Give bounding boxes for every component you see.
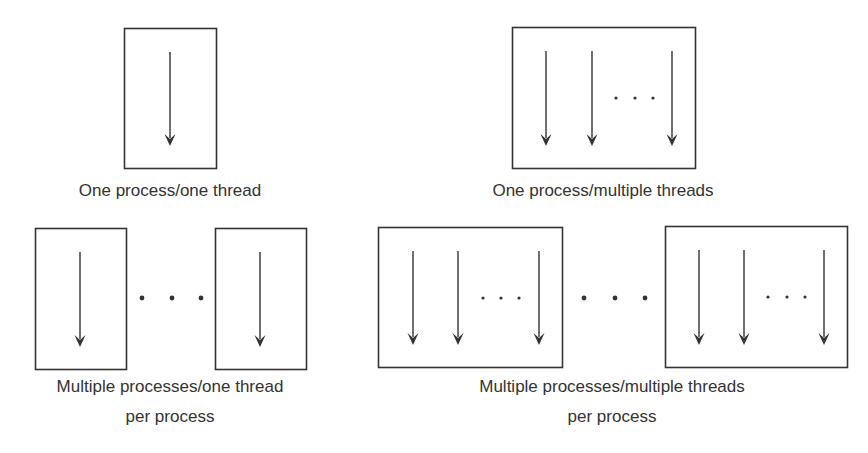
process-thread-diagram: One process/one threadOne process/multip… <box>0 0 868 453</box>
panel-multiple-processes-one-thread: Multiple processes/one threadper process <box>36 229 307 427</box>
thread-arrow-icon <box>75 252 86 347</box>
process-ellipsis-dot-icon <box>582 296 587 301</box>
process-box <box>216 229 307 370</box>
panel-one-process-multiple-threads: One process/multiple threads <box>492 28 713 201</box>
process-border <box>379 228 563 368</box>
process-ellipsis-dot-icon <box>643 296 648 301</box>
process-box <box>666 227 848 368</box>
process-ellipsis-dot-icon <box>170 296 175 301</box>
process-border <box>36 229 127 370</box>
process-ellipsis-dot-icon <box>613 296 618 301</box>
thread-arrow-icon <box>739 250 750 345</box>
thread-arrow-icon <box>541 51 552 146</box>
process-box <box>125 29 217 169</box>
thread-arrow-icon <box>667 51 678 146</box>
panel-label: One process/one thread <box>79 181 261 200</box>
thread-arrow-icon <box>453 251 464 345</box>
process-box <box>379 228 563 368</box>
thread-arrow-icon <box>587 51 598 146</box>
ellipsis-dot-icon <box>499 296 502 299</box>
thread-arrow-icon <box>408 251 419 345</box>
panel-one-process-one-thread: One process/one thread <box>79 29 261 201</box>
process-border <box>513 28 696 169</box>
process-border <box>216 229 307 370</box>
thread-arrow-icon <box>534 251 545 345</box>
thread-arrow-icon <box>819 250 830 345</box>
process-box <box>513 28 696 169</box>
ellipsis-dot-icon <box>633 96 636 99</box>
thread-arrow-icon <box>255 252 266 347</box>
ellipsis-dot-icon <box>481 296 484 299</box>
ellipsis-dot-icon <box>614 96 617 99</box>
panel-label: per process <box>126 407 215 426</box>
thread-arrow-icon <box>694 250 705 345</box>
ellipsis-dot-icon <box>803 295 806 298</box>
panel-label: Multiple processes/one thread <box>57 377 284 396</box>
process-border <box>666 227 848 368</box>
panel-label: Multiple processes/multiple threads <box>479 377 745 396</box>
ellipsis-dot-icon <box>517 296 520 299</box>
ellipsis-dot-icon <box>785 295 788 298</box>
panel-label: per process <box>568 407 657 426</box>
panel-label: One process/multiple threads <box>492 181 713 200</box>
thread-arrow-icon <box>165 52 176 146</box>
panel-multiple-processes-multiple-threads: Multiple processes/multiple threadsper p… <box>379 227 848 427</box>
process-ellipsis-dot-icon <box>199 296 204 301</box>
ellipsis-dot-icon <box>651 96 654 99</box>
process-ellipsis-dot-icon <box>140 296 145 301</box>
process-box <box>36 229 127 370</box>
ellipsis-dot-icon <box>766 295 769 298</box>
